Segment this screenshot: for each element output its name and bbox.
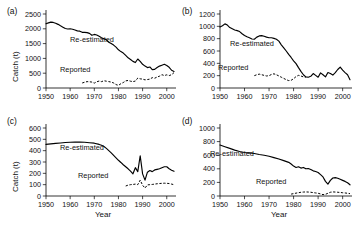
annotation-reported: Reported [218,63,248,72]
annotation-reported: Reported [60,65,90,74]
svg-text:1500: 1500 [25,39,41,48]
svg-text:1990: 1990 [310,200,326,209]
svg-text:400: 400 [29,146,41,155]
annotation-reported: Reported [78,171,108,180]
annotation-re-estimated: Re-estimated [70,35,114,44]
svg-text:2000: 2000 [25,24,41,33]
svg-text:1960: 1960 [62,200,78,209]
svg-text:1990: 1990 [310,92,326,101]
svg-text:600: 600 [203,47,215,56]
panel-b: (b) 020040060080010001200195019601970198… [178,0,355,112]
svg-text:1960: 1960 [237,200,253,209]
panel-b-plot: 0200400600800100012001950196019701980199… [178,0,355,112]
panel-c-label: (c) [7,116,17,126]
annotation-re-estimated: Re-estimated [210,149,254,158]
svg-text:1950: 1950 [38,200,54,209]
svg-text:1980: 1980 [286,92,302,101]
svg-text:1000: 1000 [199,22,215,31]
svg-text:200: 200 [29,169,41,178]
panel-a-label: (a) [7,6,17,16]
panel-c-xlabel: Year [38,210,168,219]
svg-text:2000: 2000 [159,92,175,101]
svg-text:600: 600 [29,124,41,133]
svg-text:1970: 1970 [261,200,277,209]
svg-text:1970: 1970 [86,200,102,209]
svg-text:1970: 1970 [261,92,277,101]
svg-text:200: 200 [203,178,215,187]
panel-d-label: (d) [182,116,192,126]
panel-a-ylabel: Catch (t) [11,51,20,82]
svg-text:100: 100 [29,180,41,189]
svg-text:1950: 1950 [38,92,54,101]
svg-text:1980: 1980 [110,92,126,101]
annotation-re-estimated: Re-estimated [60,143,104,152]
svg-text:400: 400 [203,164,215,173]
svg-text:1970: 1970 [86,92,102,101]
svg-text:2000: 2000 [159,200,175,209]
svg-text:200: 200 [203,71,215,80]
panel-a: (a) Catch (t) 05001000150020002500195019… [0,0,178,112]
panel-c-ylabel: Catch (t) [11,161,20,192]
svg-text:1980: 1980 [286,200,302,209]
svg-text:1960: 1960 [237,92,253,101]
svg-text:500: 500 [29,135,41,144]
svg-text:800: 800 [203,34,215,43]
panel-c: (c) Catch (t) Year 010020030040050060019… [0,112,178,228]
annotation-re-estimated: Re-estimated [230,39,274,48]
svg-text:400: 400 [203,59,215,68]
svg-text:1950: 1950 [212,200,228,209]
svg-text:1950: 1950 [212,92,228,101]
svg-text:300: 300 [29,158,41,167]
panel-d: (d) Year 0200400600800100019501960197019… [178,112,355,228]
panel-d-xlabel: Year [214,210,344,219]
svg-text:2500: 2500 [25,10,41,19]
svg-text:1960: 1960 [62,92,78,101]
svg-text:1200: 1200 [199,10,215,19]
svg-text:1980: 1980 [110,200,126,209]
svg-text:800: 800 [203,137,215,146]
svg-text:1990: 1990 [135,92,151,101]
annotation-reported: Reported [256,177,286,186]
svg-text:2000: 2000 [335,92,351,101]
svg-text:2000: 2000 [335,200,351,209]
svg-text:1000: 1000 [199,124,215,133]
panel-a-plot: 0500100015002000250019501960197019801990… [0,0,178,112]
svg-text:500: 500 [29,69,41,78]
figure-canvas: (a) Catch (t) 05001000150020002500195019… [0,0,355,228]
svg-text:1000: 1000 [25,54,41,63]
panel-b-label: (b) [182,6,192,16]
svg-text:1990: 1990 [135,200,151,209]
